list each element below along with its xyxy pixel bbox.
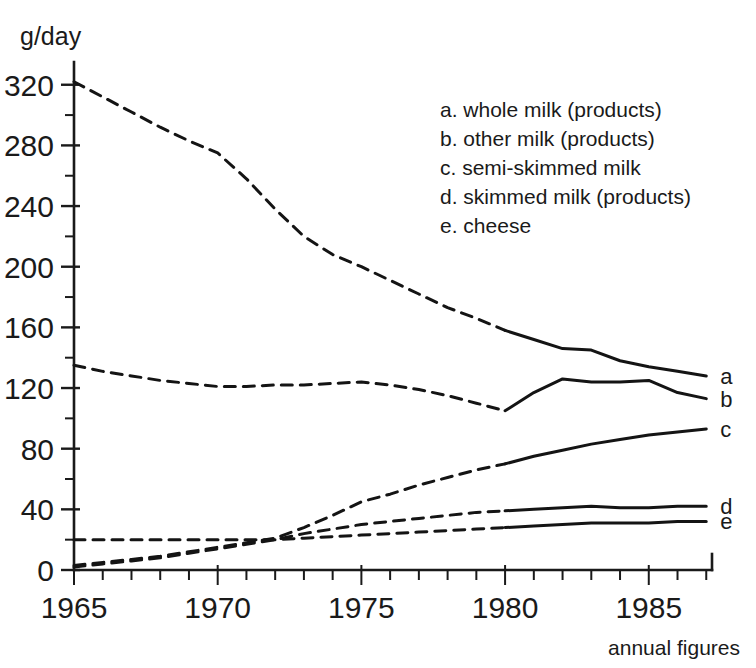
- series-end-label-a: a: [720, 364, 733, 389]
- legend-item-b: b. other milk (products): [440, 127, 655, 150]
- y-axis-unit-label-group: g/day: [20, 22, 82, 50]
- series-line-e-measured: [505, 521, 706, 527]
- y-tick-label: 280: [4, 129, 54, 162]
- series-end-label-e: e: [720, 509, 732, 534]
- y-tick-label: 120: [4, 372, 54, 405]
- y-axis-unit-label: g/day: [20, 22, 82, 50]
- series-end-label-b: b: [720, 387, 732, 412]
- y-tick-label: 160: [4, 311, 54, 344]
- x-tick-label: 1965: [41, 591, 108, 624]
- x-tick-label: 1980: [472, 591, 539, 624]
- line-chart: g/day 04080120160200240280320 1965197019…: [0, 0, 756, 668]
- y-tick-label: 0: [37, 554, 54, 587]
- x-axis-footer-label: annual figures: [608, 636, 740, 659]
- series-line-d-measured: [505, 506, 706, 511]
- x-tick-label: 1985: [615, 591, 682, 624]
- series-line-c-estimated: [74, 464, 505, 566]
- y-axis-tick-labels: 04080120160200240280320: [4, 69, 54, 587]
- legend-item-d: d. skimmed milk (products): [440, 185, 691, 208]
- series-end-labels-group: abcde: [720, 364, 733, 535]
- legend: a. whole milk (products) b. other milk (…: [440, 98, 691, 237]
- y-tick-label: 240: [4, 190, 54, 223]
- y-tick-label: 40: [21, 493, 54, 526]
- y-tick-label: 200: [4, 251, 54, 284]
- x-tick-label: 1970: [184, 591, 251, 624]
- series-line-a-measured: [505, 330, 706, 375]
- x-tick-label: 1975: [328, 591, 395, 624]
- series-lines-group: [74, 82, 706, 567]
- legend-item-c: c. semi-skimmed milk: [440, 156, 641, 179]
- legend-item-e: e. cheese: [440, 214, 531, 237]
- chart-container: g/day 04080120160200240280320 1965197019…: [0, 0, 756, 668]
- y-tick-label: 320: [4, 69, 54, 102]
- legend-item-a: a. whole milk (products): [440, 98, 662, 121]
- series-end-label-c: c: [720, 417, 731, 442]
- y-tick-label: 80: [21, 433, 54, 466]
- series-line-c-measured: [505, 429, 706, 464]
- series-line-b-estimated: [74, 365, 505, 411]
- series-line-b-measured: [505, 379, 706, 411]
- x-axis-ticks: [74, 565, 706, 585]
- x-axis-tick-labels: 19651970197519801985: [41, 591, 683, 624]
- y-axis-ticks: [61, 85, 80, 570]
